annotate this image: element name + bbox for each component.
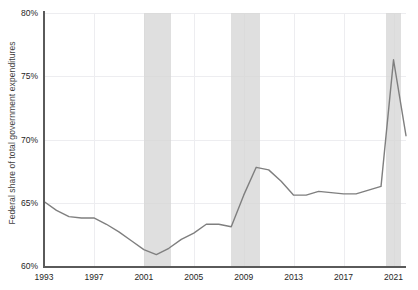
y-tick-label: 60% <box>4 262 38 270</box>
series-line-federal-share <box>44 13 406 266</box>
y-axis-line <box>43 11 45 268</box>
x-tick-label: 2009 <box>224 272 264 282</box>
x-tick-label: 1993 <box>24 272 64 282</box>
x-tick-label: 2013 <box>274 272 314 282</box>
x-tick-label: 2017 <box>324 272 364 282</box>
y-tick-label: 70% <box>4 136 38 144</box>
plot-area <box>44 13 406 266</box>
x-tick-label: 2001 <box>124 272 164 282</box>
y-tick-label: 75% <box>4 72 38 80</box>
line-chart: Federal share of total government expend… <box>0 0 418 290</box>
x-tick-label: 1997 <box>74 272 114 282</box>
y-axis-tick-labels: 60%65%70%75%80% <box>4 0 38 290</box>
x-tick-label: 2005 <box>174 272 214 282</box>
y-tick-label: 80% <box>4 9 38 17</box>
y-tick-label: 65% <box>4 199 38 207</box>
x-tick-label: 2021 <box>374 272 414 282</box>
series-polyline <box>44 60 406 255</box>
x-axis-line <box>43 266 406 268</box>
